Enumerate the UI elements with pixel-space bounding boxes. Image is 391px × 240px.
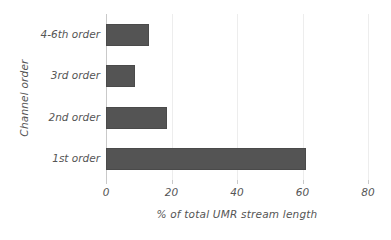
bar-chart: Channel order 020406080 1st order2nd ord… [0,0,391,240]
x-axis-tick-label: 40 [217,186,257,198]
x-axis-tick-label: 80 [348,186,388,198]
x-axis-tick-mark [172,180,173,184]
x-axis-tick-label: 0 [86,186,126,198]
bar[interactable] [106,148,306,170]
y-axis-tick-label: 4-6th order [4,28,100,40]
bar-row [106,139,368,181]
x-axis-tick-label: 20 [152,186,192,198]
plot-area [106,14,368,180]
y-axis-title: Channel order [18,33,30,163]
x-axis-tick-mark [368,180,369,184]
y-axis-tick-label: 1st order [4,152,100,164]
x-axis-tick-mark [237,180,238,184]
x-axis-title: % of total UMR stream length [106,208,368,220]
x-axis-tick-mark [303,180,304,184]
y-axis-tick-label: 2nd order [4,111,100,123]
bar-row [106,97,368,139]
bar[interactable] [106,107,167,129]
x-axis-tick-mark [106,180,107,184]
bar[interactable] [106,65,135,87]
y-axis-tick-label: 3rd order [4,69,100,81]
bar-row [106,56,368,98]
x-axis-tick-label: 60 [283,186,323,198]
bar[interactable] [106,24,149,46]
bar-row [106,14,368,56]
gridline [368,14,369,180]
